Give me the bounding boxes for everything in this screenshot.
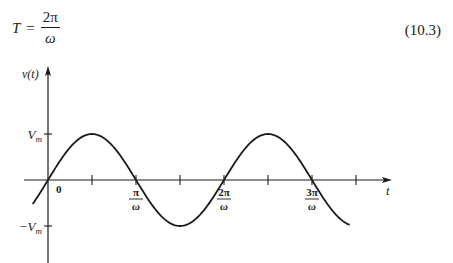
axes <box>24 66 392 263</box>
x-tick-label-denominator: ω <box>132 200 140 212</box>
y-axis-label: v(t) <box>22 67 39 81</box>
y-tick-label: Vm <box>28 127 43 144</box>
sine-wave-chart: tv(t)0πω2πω3πωVm−Vm <box>0 0 453 263</box>
x-tick-label-numerator: π <box>133 186 139 198</box>
x-tick-label-denominator: ω <box>220 200 228 212</box>
x-axis-label: t <box>386 183 390 198</box>
x-tick-label-denominator: ω <box>308 200 316 212</box>
y-tick-label: −Vm <box>19 219 43 236</box>
x-tick-label-origin: 0 <box>56 183 62 195</box>
